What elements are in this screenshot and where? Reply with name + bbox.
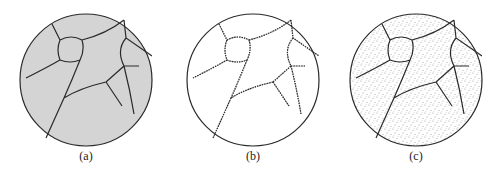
caption-c: (c)	[396, 149, 436, 164]
panel-c	[350, 14, 482, 146]
panel-a	[20, 14, 152, 146]
caption-a: (a)	[66, 149, 106, 164]
panel-b	[187, 14, 319, 146]
grain-structure-figure	[0, 0, 494, 173]
caption-b: (b)	[233, 149, 273, 164]
